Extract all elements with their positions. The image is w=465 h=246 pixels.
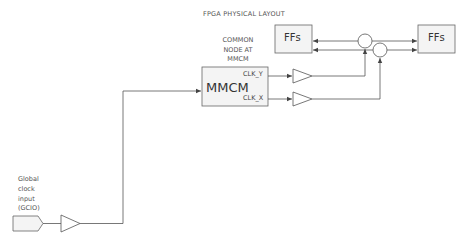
clk-y-buffer-icon bbox=[293, 69, 312, 83]
clk-x-buffer-icon bbox=[293, 92, 312, 106]
global-buffer-icon bbox=[61, 215, 80, 232]
common-node-line-1: COMMON bbox=[216, 36, 260, 46]
common-node-line-2: NODE AT bbox=[216, 46, 260, 56]
diagram-title: FPGA PHYSICAL LAYOUT bbox=[203, 10, 285, 18]
ffs-left-label: FFs bbox=[284, 32, 301, 43]
global-clock-line-3: input bbox=[18, 195, 40, 205]
clk-y-route bbox=[312, 49, 365, 76]
gcio-input-icon bbox=[13, 216, 43, 231]
clock-node-y bbox=[358, 34, 372, 48]
clk-y-port-label: CLK_Y bbox=[243, 70, 263, 78]
global-clock-line-4: (GCIO) bbox=[18, 204, 40, 214]
global-clock-label: Global clock input (GCIO) bbox=[18, 175, 40, 214]
clk-x-port-label: CLK_X bbox=[243, 94, 263, 102]
ffs-right-label: FFs bbox=[428, 32, 445, 43]
clk-x-route bbox=[312, 58, 380, 99]
mmcm-label: MMCM bbox=[206, 80, 249, 95]
global-clock-route bbox=[80, 91, 201, 224]
clock-node-x bbox=[373, 43, 387, 57]
common-node-line-3: MMCM bbox=[216, 55, 260, 65]
common-node-label: COMMON NODE AT MMCM bbox=[216, 36, 260, 65]
global-clock-line-2: clock bbox=[18, 185, 40, 195]
global-clock-line-1: Global bbox=[18, 175, 40, 185]
